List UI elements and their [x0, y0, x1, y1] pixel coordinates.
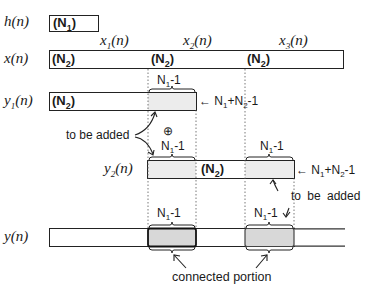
diagram-overlay — [0, 0, 381, 300]
arrows — [135, 112, 290, 268]
dotted-guides — [148, 69, 294, 228]
y-bar-extension — [294, 229, 345, 246]
